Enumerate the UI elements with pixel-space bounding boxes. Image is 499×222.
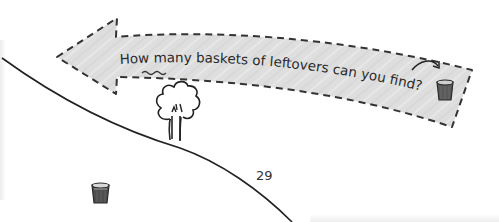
question-banner-arrow xyxy=(57,18,472,127)
question-prefix: How xyxy=(119,50,154,67)
basket-icon[interactable] xyxy=(92,183,109,203)
tree-icon xyxy=(157,82,200,141)
basket-icon xyxy=(437,80,453,100)
illustration-scene: How many baskets of leftovers can you fi… xyxy=(0,0,499,222)
question-emphasis: many xyxy=(153,49,191,65)
page-number: 29 xyxy=(256,168,273,183)
